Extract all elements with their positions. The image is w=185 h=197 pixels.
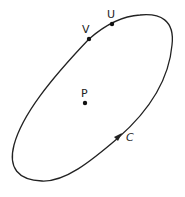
diagram-canvas: U V P C <box>0 0 185 197</box>
point-p <box>83 101 87 105</box>
label-c: C <box>126 131 134 144</box>
closed-curve-c <box>12 15 172 181</box>
label-p: P <box>81 87 88 100</box>
label-u: U <box>107 8 115 21</box>
label-v: V <box>82 23 90 36</box>
point-v <box>87 37 91 41</box>
point-u <box>110 22 114 26</box>
